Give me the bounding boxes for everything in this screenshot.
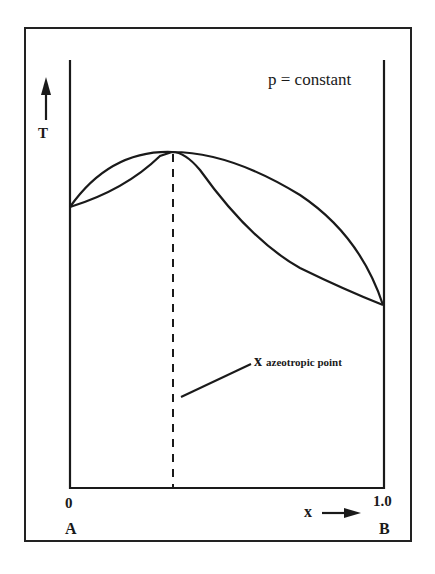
callout-label: xazeotropic point [107, 352, 191, 370]
component-b-label: B [379, 520, 390, 538]
pressure-annotation: p = constant [268, 70, 351, 90]
x-tick-left: 0 [65, 495, 73, 512]
callout-main: x [254, 352, 262, 369]
t-arrow-icon [41, 77, 51, 95]
x-axis-label: x [304, 503, 312, 521]
dew-curve [70, 152, 383, 305]
x-tick-right: 1.0 [373, 493, 392, 510]
bubble-curve [70, 152, 383, 305]
callout-leader-line [181, 364, 251, 397]
component-a-label: A [65, 520, 77, 538]
x-arrow-icon [344, 508, 361, 518]
y-axis-label: T [38, 125, 48, 142]
callout-sub: azeotropic point [266, 356, 342, 368]
phase-diagram-plot [0, 0, 435, 574]
